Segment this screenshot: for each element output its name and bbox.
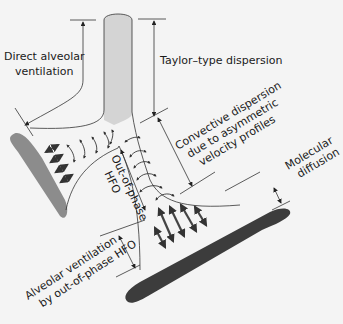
label-taylor: Taylor–type dispersion xyxy=(159,54,283,67)
airway-diagram: Direct alveolar ventilation Taylor–type … xyxy=(0,0,343,324)
left-alveolus xyxy=(10,133,67,218)
label-ventilation: ventilation xyxy=(15,65,74,78)
right-alveolus xyxy=(125,208,290,302)
label-direct-alveolar: Direct alveolar xyxy=(4,50,85,63)
diagram-frame: Direct alveolar ventilation Taylor–type … xyxy=(0,0,343,324)
trachea-fill xyxy=(104,14,132,125)
right-alveolar-arrows xyxy=(155,205,206,247)
